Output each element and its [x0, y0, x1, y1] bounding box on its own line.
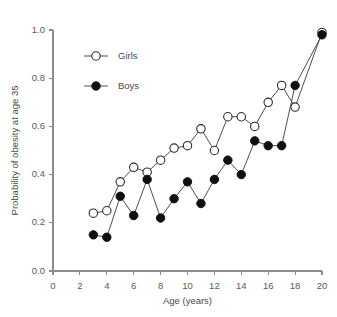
data-point-girls [197, 125, 205, 133]
y-axis-tick-labels: 0.00.20.40.60.81.0 [32, 24, 45, 276]
x-tick-label: 6 [131, 280, 136, 291]
x-axis: 02468101214161820 [50, 271, 327, 291]
data-point-boys [251, 137, 259, 145]
data-point-boys [183, 178, 191, 186]
y-tick-label: 0.4 [32, 168, 45, 179]
y-tick-label: 0.8 [32, 72, 45, 83]
data-point-boys [156, 214, 164, 222]
x-axis-tick-labels: 02468101214161820 [50, 280, 327, 291]
legend-girls-label: Girls [118, 50, 138, 61]
x-tick-label: 10 [182, 280, 193, 291]
data-point-boys [116, 192, 124, 200]
y-axis-title: Probability of obesity at age 35 [9, 86, 20, 216]
data-point-girls [210, 146, 218, 154]
data-point-boys [224, 156, 232, 164]
x-tick-label: 2 [77, 280, 82, 291]
x-tick-label: 0 [50, 280, 55, 291]
figure-caption-cutoff [0, 310, 337, 317]
data-point-boys [237, 170, 245, 178]
x-tick-label: 18 [290, 280, 301, 291]
data-point-boys [197, 199, 205, 207]
data-point-boys [89, 231, 97, 239]
obesity-probability-line-chart: 0.00.20.40.60.81.0 02468101214161820 Age… [0, 0, 337, 317]
data-point-boys [103, 233, 111, 241]
data-point-boys [277, 141, 285, 149]
data-point-girls [277, 81, 285, 89]
legend-boys-label: Boys [118, 80, 139, 91]
data-point-boys [170, 195, 178, 203]
data-point-girls [156, 156, 164, 164]
x-tick-label: 14 [236, 280, 247, 291]
data-point-boys [210, 175, 218, 183]
data-point-girls [103, 207, 111, 215]
x-axis-title: Age (years) [163, 295, 212, 306]
x-tick-label: 8 [158, 280, 163, 291]
y-tick-label: 1.0 [32, 24, 45, 35]
legend-entry-girls: Girls [84, 50, 138, 61]
data-point-girls [183, 141, 191, 149]
series-line-boys [93, 35, 322, 237]
data-point-girls [170, 144, 178, 152]
chart-legend: Girls Boys [84, 50, 139, 91]
x-axis-ticks [53, 271, 322, 275]
data-point-boys [291, 81, 299, 89]
data-point-girls [291, 103, 299, 111]
data-point-boys [130, 211, 138, 219]
legend-girls-open-circle-icon [92, 52, 100, 60]
series-boys [89, 31, 326, 242]
x-tick-label: 4 [104, 280, 109, 291]
x-tick-label: 16 [263, 280, 274, 291]
data-point-boys [318, 31, 326, 39]
data-point-girls [251, 122, 259, 130]
x-tick-label: 20 [317, 280, 328, 291]
x-tick-label: 12 [209, 280, 220, 291]
data-point-girls [224, 113, 232, 121]
y-tick-label: 0.6 [32, 120, 45, 131]
data-point-girls [264, 98, 272, 106]
chart-figure: 0.00.20.40.60.81.0 02468101214161820 Age… [0, 0, 337, 317]
legend-boys-filled-circle-icon [92, 82, 100, 90]
data-point-girls [116, 178, 124, 186]
data-point-boys [143, 175, 151, 183]
y-tick-label: 0.2 [32, 216, 45, 227]
data-point-boys [264, 141, 272, 149]
data-point-girls [89, 209, 97, 217]
y-tick-label: 0.0 [32, 265, 45, 276]
y-axis-ticks [49, 30, 53, 271]
data-point-girls [130, 163, 138, 171]
data-point-girls [237, 113, 245, 121]
legend-entry-boys: Boys [84, 80, 139, 91]
y-axis: 0.00.20.40.60.81.0 [32, 24, 53, 276]
